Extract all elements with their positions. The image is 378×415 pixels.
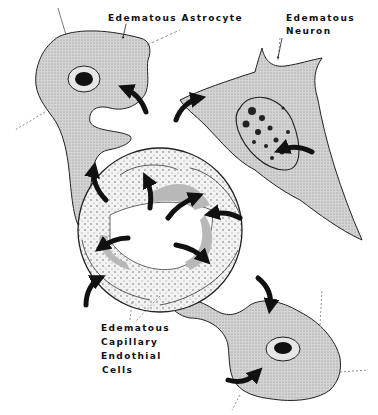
- edema-diagram: Edematous Astrocyte Edematous Neuron Ede…: [0, 0, 378, 415]
- label-capillary-line4: Cells: [102, 363, 133, 377]
- label-edematous-astrocyte: Edematous Astrocyte: [108, 11, 243, 25]
- label-capillary-line3: Endothial: [101, 349, 162, 363]
- label-capillary-line1: Edematous: [101, 321, 170, 335]
- diagram-canvas: [0, 0, 378, 415]
- label-edematous-neuron-line1: Edematous: [286, 11, 355, 25]
- neuron-pointer: [278, 38, 282, 58]
- label-capillary-line2: Capillary: [101, 335, 158, 349]
- capillary: [78, 148, 242, 322]
- label-edematous-neuron-line2: Neuron: [286, 24, 331, 38]
